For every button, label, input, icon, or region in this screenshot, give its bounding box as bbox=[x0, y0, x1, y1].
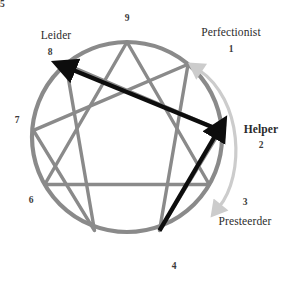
enneagram-canvas bbox=[0, 0, 293, 282]
enneagram-figure: 9 Perfectionist 1 Helper 2 3 Presteerder… bbox=[0, 0, 293, 282]
point-2-name: Helper bbox=[244, 124, 278, 136]
point-9-number: 9 bbox=[125, 14, 130, 24]
point-8-number: 8 bbox=[48, 48, 53, 58]
point-3-name: Presteerder bbox=[219, 216, 272, 228]
point-1-number: 1 bbox=[229, 45, 234, 55]
point-7-number: 7 bbox=[15, 116, 20, 126]
point-8-name: Leider bbox=[41, 30, 72, 42]
enneagram-circle bbox=[32, 42, 222, 232]
point-3-number: 3 bbox=[243, 198, 248, 208]
point-1-name: Perfectionist bbox=[201, 27, 260, 39]
point-6-number: 6 bbox=[29, 196, 34, 206]
point-2-number: 2 bbox=[259, 141, 264, 151]
point-5-number: 5 bbox=[0, 0, 5, 10]
point-4-number: 4 bbox=[172, 262, 177, 272]
